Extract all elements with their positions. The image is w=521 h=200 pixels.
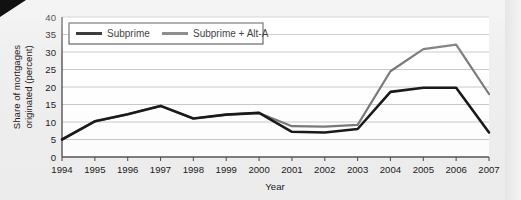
x-tick-label: 2007 [478,164,499,175]
y-tick-label: 35 [45,29,56,40]
y-tick-label: 5 [51,134,56,145]
y-tick-label: 40 [45,12,56,23]
x-tick-label: 2002 [314,164,335,175]
x-tick-label: 1997 [150,164,171,175]
x-tick-label: 1999 [216,164,237,175]
y-tick-label: 20 [45,82,56,93]
x-tick-label: 2003 [347,164,368,175]
x-axis-tick-labels: 1994199519961997199819992000200120022003… [51,164,499,175]
y-tick-label: 25 [45,64,56,75]
x-tick-label: 1995 [84,164,105,175]
y-axis-title-line1: Share of mortgages [11,45,22,129]
x-tick-label: 2001 [281,164,302,175]
figure-panel: 0510152025303540 19941995199619971998199… [0,0,521,200]
y-axis-tick-labels: 0510152025303540 [45,12,56,163]
x-tick-label: 2004 [380,164,402,175]
x-tick-label: 1998 [183,164,204,175]
legend-label-subprime: Subprime [107,28,150,39]
y-tick-label: 15 [45,99,56,110]
x-tick-label: 2005 [413,164,434,175]
x-tick-label: 1996 [117,164,138,175]
y-tick-label: 0 [51,152,56,163]
legend-label-subprime-alt-a: Subprime + Alt-A [193,28,269,39]
line-chart: 0510152025303540 19941995199619971998199… [0,0,521,200]
x-tick-label: 2006 [445,164,466,175]
x-tick-label: 1994 [51,164,73,175]
chart-legend: Subprime Subprime + Alt-A [69,23,269,44]
x-tick-label: 2000 [248,164,269,175]
y-tick-label: 30 [45,47,56,58]
y-tick-label: 10 [45,117,56,128]
y-axis-title-line2: originated (percent) [23,45,34,128]
x-axis-title: Year [265,181,285,192]
page-edge-band [505,0,521,200]
